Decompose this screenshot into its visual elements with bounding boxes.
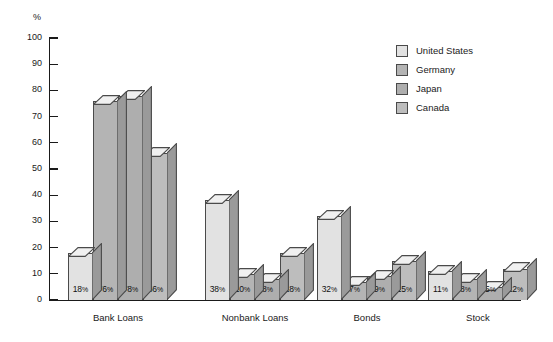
bar-side-face [391,266,401,300]
bar: 38% [205,200,230,300]
bar-chart: % 0102030405060708090100 18%76%78%56%38%… [0,0,553,342]
y-axis-tick [49,142,58,143]
bar-side-face [92,243,102,300]
legend-label: Canada [416,102,449,113]
y-axis-tick-label: 80 [14,85,42,94]
bar-side-face [341,206,351,300]
bar-side-face [366,272,376,300]
bar-side-face [167,143,177,300]
y-axis-tick [49,299,58,300]
bar-top-face [428,261,453,271]
bar-value-label: 18% [69,285,92,294]
bar-side-face [142,86,152,300]
y-axis-tick [49,273,58,274]
y-axis-tick [49,64,58,65]
legend-item: Canada [396,98,473,117]
y-axis-tick-label: 10 [14,269,42,278]
bar-top-face [205,190,230,200]
legend-item: Japan [396,79,473,98]
legend-label: Japan [416,83,442,94]
bar-side-face [477,269,487,300]
bar-top-face [392,251,417,261]
y-axis-tick [49,168,58,169]
bar-side-face [502,277,512,300]
bar-top-face [503,258,528,268]
y-axis-tick [49,90,58,91]
y-axis-tick-label: 50 [14,164,42,173]
y-axis-tick [49,221,58,222]
x-axis-category-label: Stock [388,312,553,323]
y-axis-tick-label: 0 [14,295,42,304]
bar-side-face [452,261,462,300]
bar-side-face [527,258,537,299]
bar-top-face [280,243,305,253]
y-axis-tick-label: 100 [14,33,42,42]
y-axis-tick-label: 60 [14,138,42,147]
legend-label: United States [416,45,473,56]
bar: 18% [68,253,93,300]
bar-value-label: 38% [206,285,229,294]
bar-top-face [93,91,118,101]
legend-swatch [396,45,408,57]
y-axis-tick [49,37,58,38]
y-axis-tick [49,247,58,248]
y-axis-tick-label: 20 [14,243,42,252]
bar-top-face [68,243,93,253]
legend-swatch [396,83,408,95]
y-axis-tick-label: 90 [14,59,42,68]
y-axis-tick [49,116,58,117]
bar-side-face [229,190,239,300]
bar: 32% [317,216,342,300]
y-axis-tick-label: 30 [14,216,42,225]
y-axis-tick [49,195,58,196]
bar-side-face [304,243,314,300]
legend-item: Germany [396,60,473,79]
bar-top-face [317,206,342,216]
legend: United StatesGermanyJapanCanada [396,41,473,117]
legend-swatch [396,64,408,76]
bar-side-face [117,91,127,300]
bar-side-face [254,264,264,300]
bar: 11% [428,271,453,300]
y-axis-tick-label: 40 [14,190,42,199]
bar-value-label: 11% [429,285,452,294]
bar-side-face [416,251,426,300]
bar-value-label: 32% [318,285,341,294]
bar-side-face [279,269,289,300]
legend-label: Germany [416,64,455,75]
y-axis-unit-label: % [33,12,41,22]
legend-swatch [396,102,408,114]
y-axis-tick-label: 70 [14,112,42,121]
legend-item: United States [396,41,473,60]
